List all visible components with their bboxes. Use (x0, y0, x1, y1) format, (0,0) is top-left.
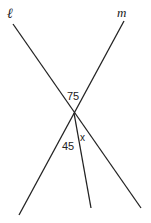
diagram-canvas: ℓ m 75 45 x (0, 0, 151, 223)
angle-label-45: 45 (62, 140, 74, 152)
diagram-svg: ℓ m 75 45 x (0, 0, 151, 223)
label-line-m: m (117, 5, 126, 20)
line-m (19, 21, 124, 215)
angle-label-x: x (80, 132, 85, 143)
ray-x (74, 113, 91, 208)
label-line-l: ℓ (7, 6, 13, 21)
angle-label-75: 75 (67, 90, 79, 102)
line-l (13, 24, 141, 208)
